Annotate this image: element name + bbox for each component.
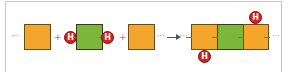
plus-sign: + bbox=[119, 32, 127, 42]
hydrogen-atom-top: H bbox=[249, 11, 262, 24]
orange-monomer-block bbox=[128, 24, 155, 50]
trailing-ellipsis: ··· bbox=[272, 33, 280, 41]
plus-sign: + bbox=[54, 32, 62, 42]
hydrogen-atom-bottom: H bbox=[198, 50, 211, 63]
orange-monomer-block bbox=[24, 24, 51, 50]
leading-ellipsis: ··· bbox=[11, 33, 19, 41]
bond-line bbox=[264, 37, 270, 38]
ellipsis-before-arrow: ··· bbox=[157, 33, 165, 41]
hydrogen-atom-right: H bbox=[101, 31, 114, 44]
bond-line bbox=[186, 37, 192, 38]
bond-line bbox=[238, 37, 244, 38]
bond-line bbox=[212, 37, 218, 38]
